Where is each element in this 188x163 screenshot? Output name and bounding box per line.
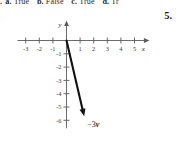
x-tick-label: 4: [119, 45, 123, 52]
vector-label-scalar: −3: [87, 120, 96, 129]
answer-value-b: False: [46, 0, 64, 6]
answer-item-d: d. Tr: [102, 0, 123, 6]
x-tick-label: 3: [106, 45, 109, 52]
y-axis-label: y: [57, 21, 62, 29]
y-tick-label: -4: [56, 90, 62, 97]
answer-item-c: c. True: [71, 0, 101, 6]
y-tick-label: -6: [56, 117, 61, 124]
answer-label-d: d.: [102, 0, 109, 6]
answer-item-a: a. True: [5, 0, 36, 6]
answer-value-d: Tr: [111, 0, 119, 6]
answer-item-b: b. False: [37, 0, 70, 6]
y-tick-label: -3: [56, 77, 61, 84]
x-tick-label: 5: [133, 45, 136, 52]
answer-label-a: a.: [5, 0, 11, 6]
y-tick-label: -1: [56, 50, 61, 57]
y-tick-label: -2: [56, 63, 61, 70]
x-tick-label: 1: [78, 45, 81, 52]
answer-value-c: True: [79, 0, 95, 6]
answer-key-lead: .: [0, 0, 2, 6]
vector-label: −3v: [87, 120, 100, 129]
x-tick-label: -1: [50, 45, 55, 52]
vector-graph: -3-2-112345-1-2-3-4-5-6 xy −3v: [0, 16, 188, 163]
plot-tick-labels: -3-2-112345-1-2-3-4-5-6: [23, 45, 136, 124]
answer-value-a: True: [14, 0, 30, 6]
answer-label-b: b.: [37, 0, 44, 6]
vector-label-symbol: v: [96, 120, 100, 129]
x-axis-label: x: [141, 45, 146, 53]
y-axis-arrowhead: [64, 21, 69, 27]
vector-arrowhead: [80, 108, 86, 116]
plot-canvas: -3-2-112345-1-2-3-4-5-6 xy −3v: [0, 16, 188, 163]
x-tick-label: 2: [92, 45, 95, 52]
x-axis-arrowhead: [144, 38, 150, 43]
plot-vectors: [67, 41, 86, 117]
plot-vector-labels: −3v: [87, 120, 100, 129]
x-tick-label: -3: [23, 45, 28, 52]
answer-key-line: . a. True b. False c. True d. Tr: [0, 0, 188, 9]
x-tick-label: -2: [37, 45, 42, 52]
y-tick-label: -5: [56, 103, 61, 110]
answer-label-c: c.: [71, 0, 77, 6]
